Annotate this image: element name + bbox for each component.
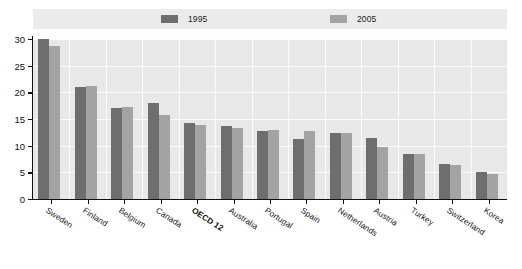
y-axis: 302520151050 <box>0 0 33 269</box>
bar-finland-1995 <box>75 87 86 199</box>
gridline-y-25 <box>33 66 507 67</box>
bar-turkey-1995 <box>403 154 414 199</box>
x-axis-label-switzerland: Switzerland <box>445 206 486 237</box>
x-axis-label-belgium: Belgium <box>117 206 147 230</box>
legend-label-1995: 1995 <box>188 14 207 24</box>
bar-chart: 1995 2005 302520151050 SwedenFinlandBelg… <box>0 0 522 269</box>
chart-legend: 1995 2005 <box>33 9 507 29</box>
x-tick-10 <box>416 200 417 204</box>
bar-netherlands-1995 <box>330 133 341 199</box>
bar-spain-2005 <box>304 131 315 199</box>
y-tick-label-25: 25 <box>0 60 25 71</box>
y-axis-line <box>32 36 33 200</box>
gridline-x-1 <box>69 39 70 199</box>
y-tick-label-20: 20 <box>0 87 25 98</box>
legend-entry-2005: 2005 <box>330 14 376 24</box>
plot-area <box>33 39 507 199</box>
bar-australia-1995 <box>221 126 232 199</box>
x-tick-11 <box>452 200 453 204</box>
x-axis-label-spain: Spain <box>300 206 323 225</box>
legend-swatch-2005 <box>330 15 347 23</box>
legend-swatch-1995 <box>161 15 178 23</box>
bar-korea-2005 <box>487 174 498 199</box>
y-tick-label-0: 0 <box>0 194 25 205</box>
x-axis-label-sweden: Sweden <box>44 206 74 230</box>
y-tick-label-10: 10 <box>0 140 25 151</box>
legend-label-2005: 2005 <box>357 14 376 24</box>
bar-sweden-2005 <box>49 46 60 199</box>
x-axis-label-finland: Finland <box>81 206 109 229</box>
x-tick-8 <box>343 200 344 204</box>
x-tick-5 <box>234 200 235 204</box>
bar-austria-1995 <box>366 138 377 199</box>
x-tick-2 <box>124 200 125 204</box>
y-tick-label-15: 15 <box>0 114 25 125</box>
bar-netherlands-2005 <box>341 133 352 199</box>
y-tick-label-5: 5 <box>0 167 25 178</box>
legend-entry-1995: 1995 <box>161 14 207 24</box>
x-axis-label-australia: Australia <box>227 206 259 231</box>
gridline-y-15 <box>33 119 507 120</box>
gridline-x-10 <box>398 39 399 199</box>
bar-belgium-2005 <box>122 107 133 199</box>
gridline-x-6 <box>252 39 253 199</box>
bar-portugal-2005 <box>268 130 279 199</box>
gridline-y-30 <box>33 39 507 40</box>
bar-turkey-2005 <box>414 154 425 199</box>
gridline-x-5 <box>215 39 216 199</box>
x-tick-9 <box>379 200 380 204</box>
x-axis-label-portugal: Portugal <box>263 206 294 231</box>
bar-switzerland-1995 <box>439 164 450 199</box>
bar-portugal-1995 <box>257 131 268 199</box>
x-tick-12 <box>489 200 490 204</box>
gridline-x-7 <box>288 39 289 199</box>
x-axis-label-austria: Austria <box>372 206 399 228</box>
bar-sweden-1995 <box>38 39 49 199</box>
gridline-x-4 <box>179 39 180 199</box>
bar-oecd-12-2005 <box>195 125 206 199</box>
x-tick-6 <box>270 200 271 204</box>
bar-finland-2005 <box>86 86 97 199</box>
gridline-x-2 <box>106 39 107 199</box>
bar-austria-2005 <box>377 147 388 199</box>
bar-australia-2005 <box>232 128 243 199</box>
gridline-x-3 <box>142 39 143 199</box>
bar-switzerland-2005 <box>450 165 461 199</box>
x-axis-label-canada: Canada <box>154 206 183 229</box>
x-axis-label-turkey: Turkey <box>409 206 435 227</box>
x-tick-4 <box>197 200 198 204</box>
x-tick-0 <box>51 200 52 204</box>
x-tick-1 <box>88 200 89 204</box>
gridline-x-12 <box>471 39 472 199</box>
bar-canada-2005 <box>159 115 170 199</box>
y-tick-label-30: 30 <box>0 34 25 45</box>
x-tick-7 <box>306 200 307 204</box>
x-axis-label-korea: Korea <box>482 206 506 226</box>
x-axis-label-oecd-12: OECD 12 <box>190 206 225 233</box>
bar-korea-1995 <box>476 172 487 199</box>
gridline-y-20 <box>33 92 507 93</box>
bar-canada-1995 <box>148 103 159 199</box>
bar-spain-1995 <box>293 139 304 199</box>
gridline-x-9 <box>361 39 362 199</box>
gridline-x-8 <box>325 39 326 199</box>
bar-oecd-12-1995 <box>184 123 195 199</box>
bar-belgium-1995 <box>111 108 122 199</box>
x-tick-3 <box>161 200 162 204</box>
gridline-x-11 <box>434 39 435 199</box>
